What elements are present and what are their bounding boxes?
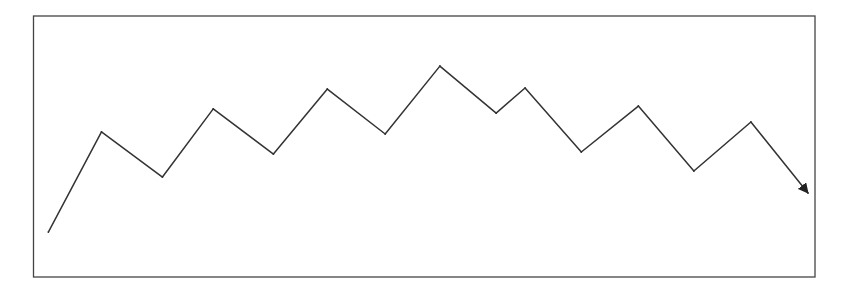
line-segment xyxy=(162,109,213,177)
line-segment-arrow xyxy=(751,122,808,193)
line-segment xyxy=(213,109,273,154)
line-segment xyxy=(440,66,496,113)
data-point xyxy=(212,108,214,110)
line-segment xyxy=(48,132,101,232)
line-segment xyxy=(496,88,525,113)
line-segment xyxy=(273,89,327,154)
data-point xyxy=(581,151,583,153)
data-point xyxy=(162,176,164,178)
data-point xyxy=(273,153,275,155)
line-chart xyxy=(0,0,843,297)
data-point xyxy=(750,121,752,123)
line-segment xyxy=(694,122,751,171)
line-segment xyxy=(525,88,581,152)
plot-frame xyxy=(34,16,816,277)
line-segment xyxy=(581,106,638,152)
line-segment xyxy=(327,89,385,134)
line-segment xyxy=(101,132,162,177)
data-point xyxy=(101,131,103,133)
data-point xyxy=(638,105,640,107)
data-point xyxy=(693,170,695,172)
line-segment xyxy=(385,66,440,134)
line-segment xyxy=(638,106,693,171)
data-point xyxy=(524,87,526,89)
data-point xyxy=(807,192,809,194)
data-point xyxy=(384,133,386,135)
data-point xyxy=(327,88,329,90)
data-point xyxy=(48,231,50,233)
data-point xyxy=(439,65,441,67)
data-point xyxy=(495,112,497,114)
